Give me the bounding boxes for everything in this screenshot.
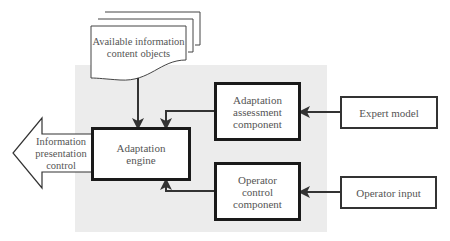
- output-label: Information presentation control: [30, 136, 92, 172]
- adaptation-assessment-label: Adaptation assessment component: [233, 94, 282, 130]
- adaptation-assessment-node: Adaptation assessment component: [214, 82, 301, 141]
- operator-control-label: Operator control component: [233, 174, 282, 210]
- operator-control-node: Operator control component: [214, 162, 301, 221]
- operator-input-node: Operator input: [340, 176, 437, 209]
- operator-input-label: Operator input: [356, 187, 420, 199]
- expert-model-node: Expert model: [340, 96, 438, 129]
- content-objects-label: Available information content objects: [91, 36, 186, 60]
- adaptation-engine-node: Adaptation engine: [91, 127, 191, 181]
- adaptation-engine-label: Adaptation engine: [117, 142, 166, 166]
- expert-model-label: Expert model: [359, 107, 419, 119]
